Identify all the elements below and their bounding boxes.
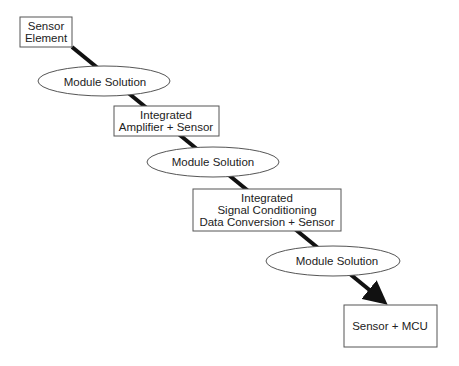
node-label: Data Conversion + Sensor <box>199 216 334 228</box>
node-sensor-element: Sensor Element <box>20 17 72 47</box>
node-label: Integrated <box>140 109 192 121</box>
node-label: Sensor + MCU <box>352 320 428 332</box>
node-label: Amplifier + Sensor <box>119 121 213 133</box>
evolution-diagram: Sensor Element Module Solution Integrate… <box>0 0 459 366</box>
node-sensor-mcu: Sensor + MCU <box>344 305 437 347</box>
node-module-solution-1: Module Solution <box>38 66 170 96</box>
node-label: Sensor <box>28 20 65 32</box>
node-module-solution-2: Module Solution <box>147 147 279 177</box>
node-label: Module Solution <box>296 255 378 267</box>
node-label: Module Solution <box>172 156 254 168</box>
node-label: Module Solution <box>64 76 146 88</box>
node-label: Element <box>25 32 68 44</box>
node-module-solution-3: Module Solution <box>266 246 400 276</box>
node-integrated-signal-conditioning: Integrated Signal Conditioning Data Conv… <box>193 189 341 231</box>
node-integrated-amplifier: Integrated Amplifier + Sensor <box>114 106 219 136</box>
node-label: Signal Conditioning <box>217 204 316 216</box>
node-label: Integrated <box>241 192 293 204</box>
